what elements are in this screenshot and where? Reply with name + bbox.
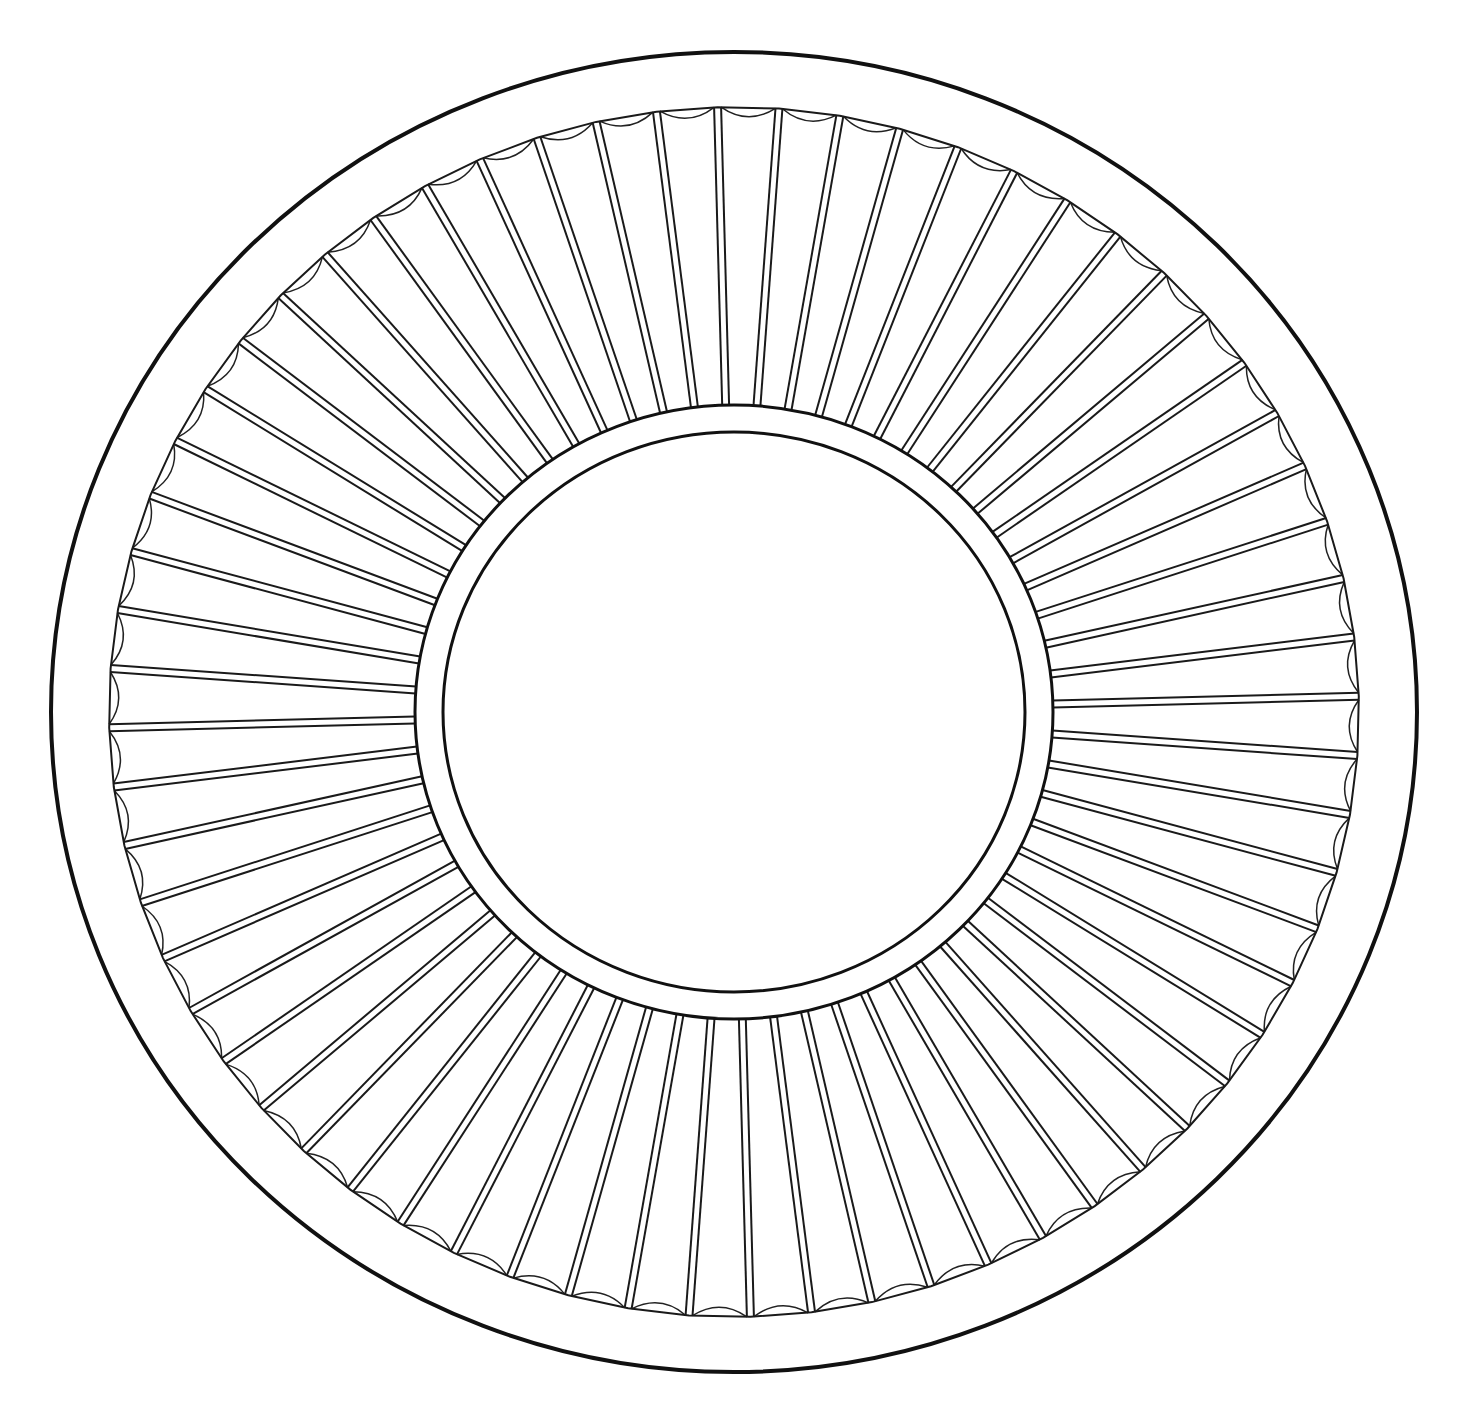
radial-rosette-figure	[0, 0, 1465, 1418]
background	[0, 0, 1465, 1418]
